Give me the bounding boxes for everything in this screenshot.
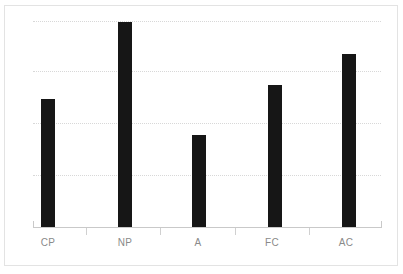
plot-area: CP NP A FC AC [5,6,399,267]
gridline-3 [33,123,381,124]
x-axis-label-a: A [163,237,233,248]
x-axis-label-cp: CP [13,237,83,248]
x-axis-label-np: NP [90,237,160,248]
x-axis-right-cap [381,221,382,228]
gridline-1 [33,21,381,22]
chart-figure: CP NP A FC AC [4,5,398,266]
bar-a [192,135,206,227]
gridline-2 [33,71,381,72]
x-axis-tick-4 [309,228,310,235]
bar-fc [268,85,282,227]
bar-ac [342,54,356,227]
x-axis-tick-1 [86,228,87,235]
x-axis-tick-2 [160,228,161,235]
x-axis-left-cap [33,221,34,228]
x-axis-tick-3 [235,228,236,235]
bar-cp [41,99,55,227]
gridline-4 [33,175,381,176]
x-axis-label-fc: FC [237,237,307,248]
bar-np [118,22,132,227]
x-axis-label-ac: AC [311,237,381,248]
